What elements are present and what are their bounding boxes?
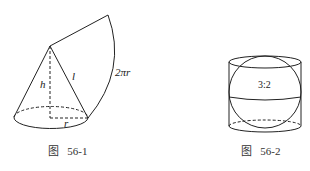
- label-ratio: 3:2: [258, 79, 271, 90]
- label-l: l: [72, 70, 75, 82]
- label-2pir: 2πr: [115, 66, 131, 78]
- caption-56-2: 图 56-2: [241, 142, 280, 158]
- label-h: h: [40, 78, 46, 90]
- figure-56-1-cone: [14, 15, 115, 129]
- caption-56-1: 图 56-1: [48, 142, 87, 158]
- figure-56-2-sphere-in-cylinder: [229, 56, 301, 132]
- label-r: r: [64, 117, 69, 129]
